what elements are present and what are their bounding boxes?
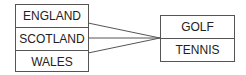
left-set-box: ENGLAND SCOTLAND WALES	[15, 4, 89, 72]
left-item-england: ENGLAND	[16, 5, 88, 28]
line-wales	[88, 38, 160, 53]
right-item-tennis: TENNIS	[161, 39, 234, 61]
left-item-wales: WALES	[16, 51, 88, 73]
right-item-golf: GOLF	[161, 16, 234, 39]
left-item-scotland: SCOTLAND	[16, 28, 88, 51]
right-set-box: GOLF TENNIS	[160, 15, 235, 62]
line-england	[88, 23, 160, 38]
